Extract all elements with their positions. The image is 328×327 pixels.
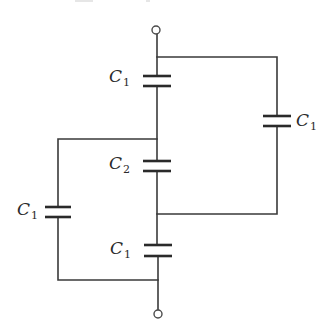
label-c2-middle: C2 — [109, 155, 130, 172]
capacitor-c2-middle — [143, 161, 171, 171]
cropped-text-remnant — [146, 0, 150, 2]
label-subscript: 1 — [31, 209, 38, 222]
label-c1-bottom: C1 — [110, 240, 131, 257]
label-subscript: 1 — [123, 76, 130, 89]
label-main: C — [109, 153, 122, 173]
label-c1-top: C1 — [109, 68, 130, 85]
terminal-top-icon — [152, 26, 160, 34]
label-subscript: 1 — [310, 120, 317, 133]
capacitor-group — [45, 76, 291, 256]
label-main: C — [110, 238, 123, 258]
label-subscript: 2 — [123, 163, 130, 176]
capacitor-c1-bottom — [144, 245, 172, 256]
wire-left-bottom-branch — [58, 217, 158, 280]
cropped-text-remnant — [75, 0, 93, 2]
capacitor-c1-right — [263, 116, 291, 126]
label-subscript: 1 — [124, 248, 131, 261]
wire-left-top-branch — [58, 139, 157, 207]
wire-right-bottom-branch — [157, 126, 277, 214]
label-main: C — [17, 199, 30, 219]
label-c1-right: C1 — [296, 112, 317, 129]
capacitor-c1-left — [45, 207, 71, 217]
terminal-bottom-icon — [154, 310, 162, 318]
label-c1-left: C1 — [17, 201, 38, 218]
circuit-diagram — [0, 0, 328, 327]
wire-top-right-branch — [157, 57, 277, 116]
capacitor-c1-top — [143, 76, 171, 86]
label-main: C — [109, 66, 122, 86]
label-main: C — [296, 110, 309, 130]
